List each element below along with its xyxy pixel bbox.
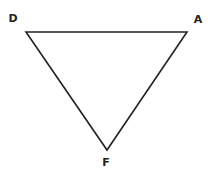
vertex-label-a: A	[194, 13, 203, 26]
vertex-label-d: D	[8, 12, 17, 25]
triangle-shape	[26, 32, 187, 150]
triangle-diagram: D A F	[0, 0, 212, 173]
vertex-label-f: F	[102, 156, 110, 169]
